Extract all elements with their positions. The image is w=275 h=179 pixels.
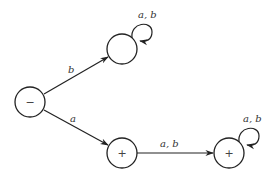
final-state-node-right: + (214, 138, 244, 168)
start-state-node: − (15, 87, 45, 117)
self-loop-right-label: a, b (243, 113, 262, 124)
final-state-node-mid: + (107, 138, 137, 168)
self-loop-right: a, b (239, 113, 262, 145)
plus-marker: + (117, 147, 126, 160)
minus-marker: − (25, 96, 34, 109)
plus-marker: + (224, 147, 233, 160)
edge-mid-to-right: a, b (137, 138, 213, 153)
edge-label-a: a (70, 113, 76, 124)
edge-start-to-top: b (44, 57, 108, 94)
edge-label-b: b (68, 64, 74, 75)
self-loop-top: a, b (132, 9, 157, 41)
self-loop-top-label: a, b (138, 9, 157, 20)
edge-label-ab: a, b (160, 138, 179, 149)
trap-state-node (107, 34, 137, 64)
automaton-diagram: b a a, b a, b a, b − + + (0, 0, 275, 179)
edge-start-to-mid: a (44, 110, 108, 145)
